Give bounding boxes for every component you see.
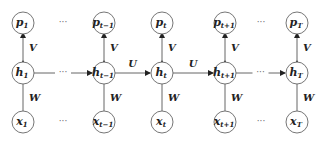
ellipsis: ··· [59,17,68,27]
weight-v-label: V [303,42,312,53]
weight-v-label: V [231,42,240,53]
weight-u-label: U [128,58,138,69]
weight-u-label: U [189,58,199,69]
weight-v-label: V [29,42,38,53]
weight-w-label: W [168,92,181,103]
ellipsis: ··· [59,67,68,77]
ellipsis: ··· [257,17,266,27]
ellipsis: ··· [257,116,266,126]
weight-v-label: V [168,42,177,53]
weight-w-label: W [110,92,123,103]
weight-w-label: W [29,92,42,103]
weight-v-label: V [110,42,119,53]
weight-w-label: W [231,92,244,103]
weight-w-label: W [303,92,316,103]
ellipsis: ··· [59,116,68,126]
ellipsis: ··· [256,67,265,77]
rnn-diagram: ······ WVp1h1x1WVpt−1ht−1xt−1WVpthtxtWVp… [0,0,324,144]
